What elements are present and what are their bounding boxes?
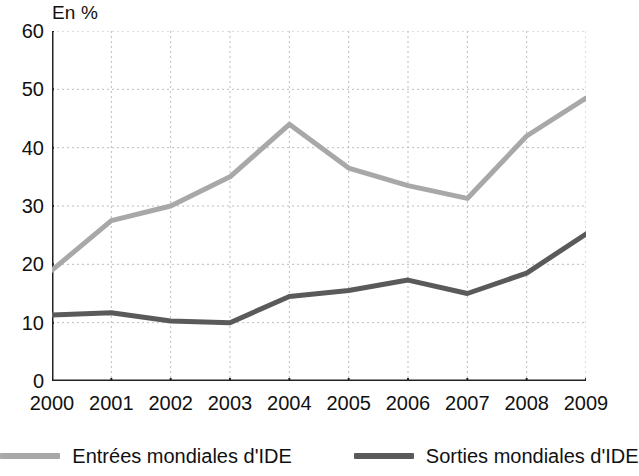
x-tick-label-2004: 2004 (267, 392, 312, 415)
legend-label-sorties: Sorties mondiales d'IDE (426, 445, 639, 468)
plot-svg (52, 31, 586, 381)
y-tick-label-20: 20 (2, 253, 44, 276)
chart-container: En % 0102030405060 200020012002200320042… (0, 0, 639, 476)
data-series-layer (52, 98, 586, 323)
chart-legend: Entrées mondiales d'IDE Sorties mondiale… (0, 440, 639, 472)
x-tick-label-2009: 2009 (564, 392, 609, 415)
legend-swatch-sorties (354, 453, 414, 459)
legend-item-entrees: Entrées mondiales d'IDE (0, 445, 291, 468)
y-tick-label-50: 50 (2, 78, 44, 101)
y-tick-label-40: 40 (2, 136, 44, 159)
axis-unit-label: En % (52, 2, 98, 24)
y-tick-label-30: 30 (2, 195, 44, 218)
x-tick-label-2005: 2005 (326, 392, 371, 415)
y-tick-label-60: 60 (2, 20, 44, 43)
legend-swatch-entrees (0, 453, 60, 459)
y-tick-label-0: 0 (2, 370, 44, 393)
x-tick-label-2007: 2007 (445, 392, 490, 415)
x-tick-label-2001: 2001 (89, 392, 134, 415)
x-tick-label-2008: 2008 (504, 392, 549, 415)
legend-label-entrees: Entrées mondiales d'IDE (72, 445, 291, 468)
y-tick-label-10: 10 (2, 311, 44, 334)
x-tick-label-2006: 2006 (386, 392, 431, 415)
x-tick-label-2003: 2003 (208, 392, 253, 415)
gridlines (52, 31, 586, 381)
x-tick-label-2002: 2002 (148, 392, 193, 415)
x-tick-label-2000: 2000 (30, 392, 75, 415)
legend-item-sorties: Sorties mondiales d'IDE (354, 445, 639, 468)
plot-area (52, 31, 586, 381)
